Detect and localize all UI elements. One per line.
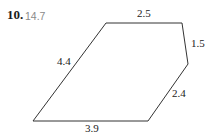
side-label-bottom: 3.9	[85, 123, 99, 134]
side-label-lower-right: 2.4	[172, 88, 186, 99]
side-label-top: 2.5	[137, 8, 151, 19]
side-label-upper-right: 1.5	[191, 38, 205, 49]
pentagon-outline	[33, 23, 188, 121]
pentagon-figure	[0, 0, 210, 140]
side-label-left: 4.4	[57, 56, 71, 67]
